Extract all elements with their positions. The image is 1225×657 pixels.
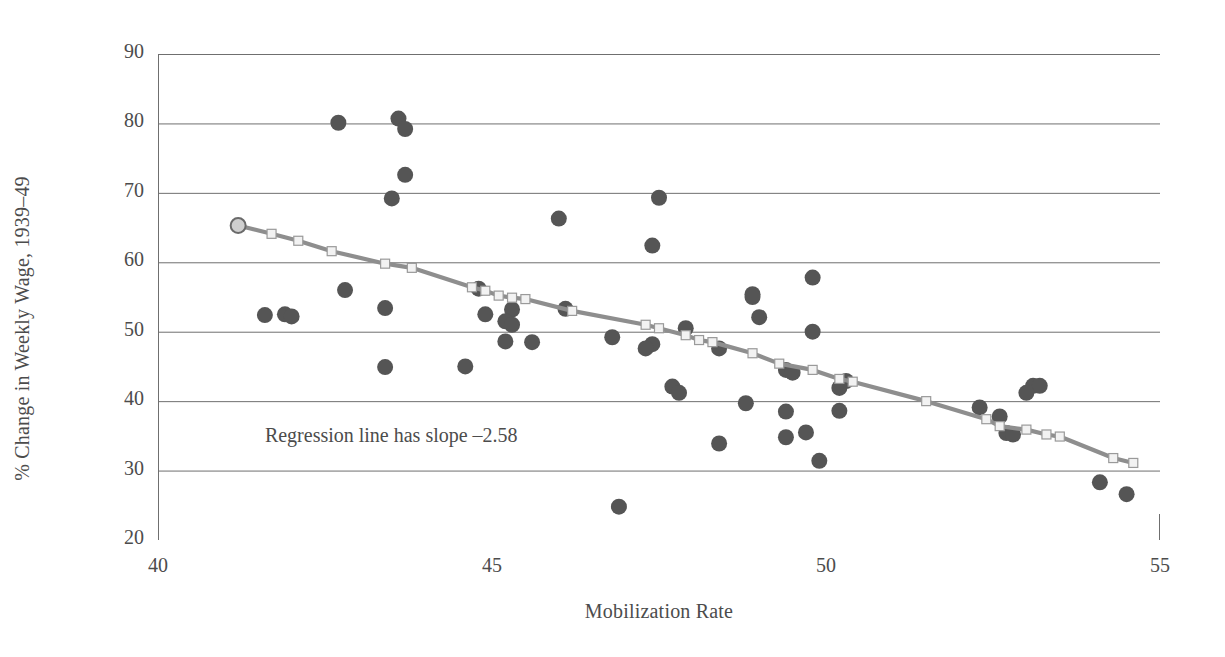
regression-marker	[982, 415, 991, 424]
regression-start-marker	[231, 218, 246, 233]
x-axis-tick-label: 55	[1130, 554, 1190, 577]
data-point	[397, 121, 413, 137]
data-point	[831, 403, 847, 419]
data-point	[477, 306, 493, 322]
regression-marker	[808, 365, 817, 374]
x-axis-tick-label: 40	[128, 554, 188, 577]
regression-marker	[681, 331, 690, 340]
data-point	[257, 307, 273, 323]
regression-marker	[481, 286, 490, 295]
regression-slope-annotation: Regression line has slope –2.58	[265, 424, 518, 447]
data-point	[711, 435, 727, 451]
regression-marker	[327, 247, 336, 256]
data-point	[377, 359, 393, 375]
data-point	[805, 270, 821, 286]
regression-marker	[267, 229, 276, 238]
data-point	[611, 499, 627, 515]
regression-marker	[407, 263, 416, 272]
data-point	[1018, 385, 1034, 401]
data-point	[497, 333, 513, 349]
regression-marker	[708, 338, 717, 347]
data-point	[604, 329, 620, 345]
regression-marker	[848, 377, 857, 386]
data-point	[798, 424, 814, 440]
data-point	[638, 340, 654, 356]
x-axis-tick-label: 45	[462, 554, 522, 577]
data-point	[651, 190, 667, 206]
regression-marker	[1109, 454, 1118, 463]
x-axis-tick-label: 50	[796, 554, 856, 577]
x-axis-title: Mobilization Rate	[158, 600, 1160, 623]
axis-group	[158, 54, 1160, 540]
y-axis-tick-label: 20	[102, 526, 144, 549]
data-point	[1092, 474, 1108, 490]
data-point	[1119, 486, 1135, 502]
data-point	[551, 211, 567, 227]
data-point	[811, 453, 827, 469]
data-point	[738, 395, 754, 411]
data-point	[524, 334, 540, 350]
regression-marker	[1055, 432, 1064, 441]
y-axis-title: % Change in Weekly Wage, 1939–49	[0, 0, 44, 657]
y-axis-tick-label: 40	[102, 387, 144, 410]
data-point-group	[257, 111, 1135, 515]
regression-marker	[655, 324, 664, 333]
regression-marker	[294, 236, 303, 245]
regression-marker	[568, 306, 577, 315]
regression-marker	[1022, 425, 1031, 434]
regression-marker	[775, 359, 784, 368]
data-point	[972, 399, 988, 415]
regression-marker	[995, 422, 1004, 431]
data-point	[504, 317, 520, 333]
regression-marker	[835, 374, 844, 383]
y-axis-tick-label: 80	[102, 109, 144, 132]
regression-marker	[641, 320, 650, 329]
data-point	[745, 289, 761, 305]
data-point	[805, 324, 821, 340]
scatter-plot-figure: % Change in Weekly Wage, 1939–49 Mobiliz…	[0, 0, 1225, 657]
plot-area	[158, 54, 1160, 540]
data-point	[671, 385, 687, 401]
regression-marker	[521, 295, 530, 304]
data-point	[377, 300, 393, 316]
regression-marker	[922, 397, 931, 406]
y-axis-tick-label: 30	[102, 457, 144, 480]
regression-marker	[494, 291, 503, 300]
data-point	[384, 190, 400, 206]
plot-canvas	[158, 54, 1160, 540]
regression-marker	[508, 293, 517, 302]
regression-marker	[748, 349, 757, 358]
regression-marker	[1042, 430, 1051, 439]
data-point	[284, 308, 300, 324]
regression-marker	[1129, 458, 1138, 467]
data-point	[778, 429, 794, 445]
data-point	[778, 404, 794, 420]
data-point	[397, 167, 413, 183]
y-axis-tick-label: 70	[102, 179, 144, 202]
y-axis-tick-label: 50	[102, 318, 144, 341]
y-axis-tick-label: 90	[102, 40, 144, 63]
y-axis-tick-label: 60	[102, 248, 144, 271]
data-point	[457, 358, 473, 374]
data-point	[644, 238, 660, 254]
data-point	[751, 309, 767, 325]
data-point	[330, 115, 346, 131]
regression-marker	[381, 259, 390, 268]
gridline-group	[158, 55, 1160, 541]
data-point	[337, 282, 353, 298]
regression-marker	[467, 283, 476, 292]
regression-marker	[695, 336, 704, 345]
